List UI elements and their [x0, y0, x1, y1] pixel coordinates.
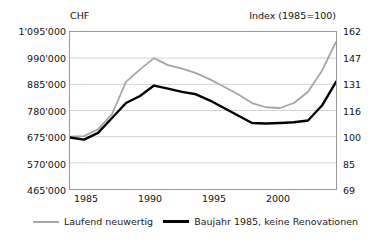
- y-axis-right-tick-6: 69: [343, 185, 383, 196]
- legend-item-laufend-neuwertig: Laufend neuwertig: [33, 216, 153, 227]
- y-axis-right-tick-4: 100: [343, 132, 383, 143]
- y-axis-left-tick-6: 465'000: [0, 185, 66, 196]
- legend-item-baujahr-1985: Baujahr 1985, keine Renovationen: [163, 216, 358, 227]
- chart-legend: Laufend neuwertig Baujahr 1985, keine Re…: [0, 216, 391, 227]
- x-axis-tick-3: 2000: [258, 193, 298, 204]
- plot-area: [69, 31, 337, 190]
- x-axis-tick-0: 1985: [66, 193, 106, 204]
- right-axis-title: Index (1985=100): [249, 10, 336, 21]
- y-axis-left-tick-1: 990'000: [0, 53, 66, 64]
- y-axis-right-tick-3: 116: [343, 106, 383, 117]
- series-lines: [70, 42, 336, 140]
- y-axis-left-tick-3: 780'000: [0, 106, 66, 117]
- legend-line-icon-gray: [33, 221, 59, 223]
- left-axis-title: CHF: [70, 10, 89, 21]
- y-axis-right-tick-0: 162: [343, 26, 383, 37]
- legend-label-1: Baujahr 1985, keine Renovationen: [194, 216, 358, 227]
- y-axis-left-tick-4: 675'000: [0, 132, 66, 143]
- y-axis-right-tick-2: 131: [343, 79, 383, 90]
- y-axis-right-tick-1: 147: [343, 53, 383, 64]
- gridlines: [70, 58, 336, 163]
- y-axis-left-tick-2: 885'000: [0, 79, 66, 90]
- legend-label-0: Laufend neuwertig: [64, 216, 153, 227]
- chart-container: CHF Index (1985=100) 1'095'000 990'000 8…: [0, 0, 391, 245]
- y-axis-left-tick-5: 570'000: [0, 159, 66, 170]
- legend-line-icon-black: [163, 220, 189, 223]
- x-axis-tick-1: 1990: [130, 193, 170, 204]
- plot-svg: [70, 32, 336, 189]
- y-axis-left-tick-0: 1'095'000: [0, 26, 66, 37]
- y-axis-right-tick-5: 85: [343, 159, 383, 170]
- x-axis-tick-2: 1995: [194, 193, 234, 204]
